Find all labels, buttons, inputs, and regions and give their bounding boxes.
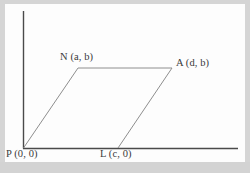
vertex-label-P: P (0, 0): [6, 148, 38, 159]
figure-root: N (a, b) A (d, b) P (0, 0) L (c, 0): [0, 0, 250, 173]
vertex-label-L: L (c, 0): [100, 148, 132, 159]
vertex-label-N: N (a, b): [60, 51, 93, 62]
edge-PN: [24, 68, 79, 148]
vertex-label-A: A (d, b): [176, 57, 209, 68]
edge-AL: [118, 68, 172, 148]
bottom-border-strip: [0, 162, 250, 173]
